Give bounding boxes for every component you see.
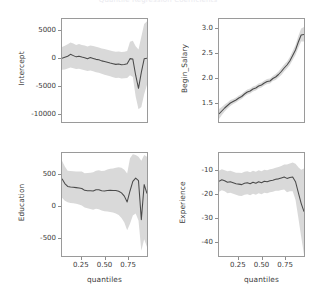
ytick-mark (58, 58, 61, 59)
plot-area-experience (219, 153, 304, 256)
ytick-mark (215, 53, 218, 54)
subplot-intercept (61, 18, 148, 123)
ylabel-begin-salary: Begin_Salary (180, 39, 189, 99)
ytick-label: 500 (17, 170, 56, 178)
ytick-label: -40 (174, 238, 213, 246)
xtick-mark (128, 257, 129, 260)
ytick-label: 5000 (17, 26, 56, 34)
xtick-mark (238, 257, 239, 260)
plot-area-begin-salary (219, 19, 304, 122)
axes-frame-education (61, 152, 148, 257)
plot-area-education (62, 153, 147, 256)
xtick-label: 0.75 (269, 261, 301, 269)
ytick-label: -30 (174, 214, 213, 222)
xtick-mark (262, 257, 263, 260)
confidence-band (62, 154, 147, 251)
xlabel-experience: quantiles (218, 275, 305, 284)
subplot-education (61, 152, 148, 257)
confidence-band (219, 163, 304, 255)
ytick-mark (215, 242, 218, 243)
xtick-mark (285, 257, 286, 260)
figure-canvas: Quantile Regression Coefficients Interce… (0, 0, 316, 295)
ytick-label: -10 (174, 166, 213, 174)
ytick-mark (215, 28, 218, 29)
axes-frame-begin-salary (218, 18, 305, 123)
ytick-label: -20 (174, 190, 213, 198)
ytick-label: 0 (17, 202, 56, 210)
confidence-band (219, 27, 304, 119)
ytick-mark (215, 194, 218, 195)
ytick-label: 0 (17, 54, 56, 62)
xlabel-education: quantiles (61, 275, 148, 284)
ytick-mark (215, 78, 218, 79)
ytick-mark (58, 238, 61, 239)
figure-title: Quantile Regression Coefficients (0, 0, 316, 5)
ytick-mark (58, 206, 61, 207)
xtick-label: 0.75 (112, 261, 144, 269)
axes-frame-intercept (61, 18, 148, 123)
ytick-label: 3.0 (174, 24, 213, 32)
ytick-mark (58, 30, 61, 31)
axes-frame-experience (218, 152, 305, 257)
xtick-mark (105, 257, 106, 260)
ytick-label: -10000 (17, 110, 56, 118)
ylabel-experience: Experience (178, 173, 187, 233)
ytick-label: -500 (17, 234, 56, 242)
ytick-mark (215, 170, 218, 171)
ytick-label: 1.5 (174, 99, 213, 107)
ytick-label: 2.0 (174, 74, 213, 82)
coefficient-line (219, 35, 304, 115)
ytick-label: 2.5 (174, 49, 213, 57)
subplot-begin-salary (218, 18, 305, 123)
ytick-mark (215, 103, 218, 104)
plot-area-intercept (62, 19, 147, 122)
ytick-mark (215, 218, 218, 219)
subplot-experience (218, 152, 305, 257)
xtick-mark (81, 257, 82, 260)
ytick-mark (58, 86, 61, 87)
ytick-label: -5000 (17, 82, 56, 90)
ytick-mark (58, 114, 61, 115)
ytick-mark (58, 174, 61, 175)
